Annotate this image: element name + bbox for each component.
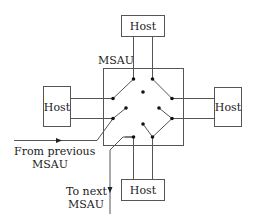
msau-box (104, 69, 184, 146)
switch-arm-br2 (153, 119, 173, 138)
host-right-label: Host (215, 101, 242, 114)
switch-arm-br (143, 124, 153, 137)
from-previous-line (14, 119, 113, 141)
switch-contacts (111, 77, 174, 139)
to-next-line (110, 137, 134, 214)
arrow-right-icon (56, 138, 62, 143)
msau-label: MSAU (98, 54, 134, 67)
host-bottom-label: Host (130, 184, 157, 197)
host-top-label: Host (130, 20, 157, 33)
from-previous-label-2: MSAU (32, 158, 68, 171)
switch-arm-tr (153, 79, 173, 99)
switch-arm-tl (113, 79, 134, 99)
switch-arm-lm (113, 108, 126, 119)
to-next-label-2: MSAU (68, 198, 104, 211)
to-next-label-1: To next (66, 185, 107, 198)
switch-arm-rm (159, 108, 172, 119)
from-previous-label-1: From previous (14, 145, 96, 158)
msau-diagram: MSAU Host Host Host Host From previous M… (0, 0, 254, 222)
host-left-label: Host (44, 101, 71, 114)
arrow-down-icon (108, 187, 113, 193)
